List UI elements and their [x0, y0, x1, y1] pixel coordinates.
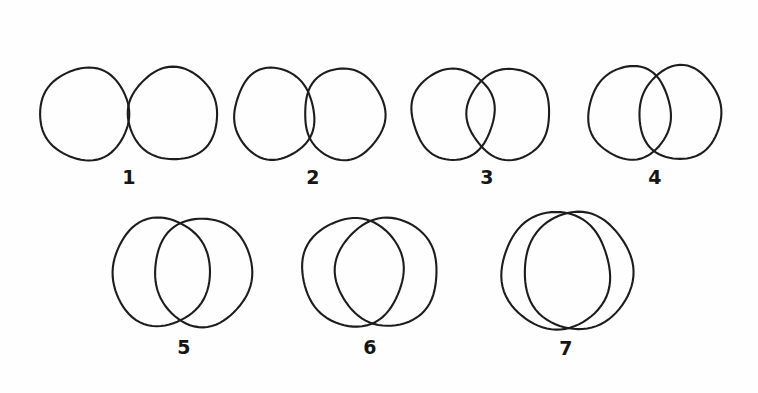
pair-label: 6	[363, 336, 377, 358]
circle-pair-5: 5	[113, 217, 253, 358]
circle-left	[40, 67, 129, 160]
circle-pair-1: 1	[40, 67, 217, 188]
pair-label: 3	[480, 166, 494, 188]
circle-left	[234, 68, 314, 160]
circle-pair-4: 4	[588, 65, 721, 188]
circle-right	[155, 219, 252, 328]
circle-pair-6: 6	[302, 218, 436, 358]
figure-canvas: 1234567	[0, 0, 758, 393]
pair-label: 2	[306, 166, 320, 188]
circle-right	[305, 69, 385, 161]
circle-overlap-diagram: 1234567	[0, 0, 758, 393]
circle-left	[113, 217, 210, 326]
circle-left	[501, 212, 610, 330]
circle-pair-7: 7	[501, 212, 633, 359]
circle-right	[335, 218, 437, 326]
pair-label: 4	[648, 166, 662, 188]
circle-right	[466, 69, 549, 160]
pair-label: 1	[122, 166, 136, 188]
circle-right	[639, 65, 721, 159]
circle-pair-2: 2	[234, 68, 385, 188]
circle-right	[128, 67, 217, 159]
circle-pair-3: 3	[411, 69, 549, 188]
circle-left	[588, 66, 671, 160]
pair-label: 5	[177, 336, 191, 358]
circle-right	[525, 212, 634, 329]
pair-label: 7	[559, 337, 573, 359]
